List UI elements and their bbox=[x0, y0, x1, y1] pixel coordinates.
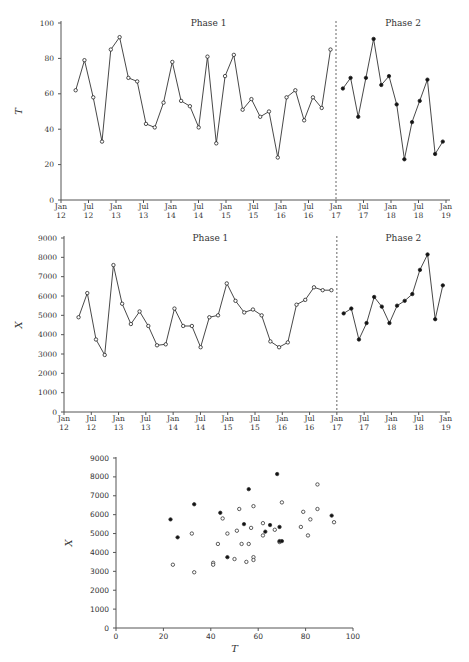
phase-1-point bbox=[86, 291, 89, 294]
phase-2-point bbox=[388, 321, 391, 324]
phase-1-point bbox=[162, 101, 165, 104]
x-tick-label-month: Jul bbox=[413, 414, 425, 423]
phase-2-point bbox=[380, 83, 383, 86]
y-tick-label: 1000 bbox=[90, 605, 109, 614]
phase-1-point bbox=[312, 286, 315, 289]
phase-2-point bbox=[342, 312, 345, 315]
phase-1-point bbox=[135, 80, 138, 83]
y-tick-label: 5000 bbox=[38, 311, 57, 320]
phase-1-point bbox=[277, 346, 280, 349]
x-tick-label-month: Jul bbox=[247, 202, 259, 211]
phase-1-label: Phase 1 bbox=[191, 18, 227, 28]
phase-1-point bbox=[188, 104, 191, 107]
phase-1-point bbox=[233, 557, 236, 560]
phase-2-point bbox=[247, 487, 250, 490]
phase-1-point bbox=[83, 58, 86, 61]
phase-1-point bbox=[332, 521, 335, 524]
phase-1-point bbox=[304, 298, 307, 301]
phase-1-point bbox=[235, 529, 238, 532]
y-tick-label: 60 bbox=[44, 89, 54, 98]
phase-2-label: Phase 2 bbox=[385, 18, 421, 28]
phase-1-point bbox=[252, 558, 255, 561]
phase-1-point bbox=[247, 542, 250, 545]
x-tick-label: 100 bbox=[346, 632, 361, 641]
phase-2-point bbox=[380, 305, 383, 308]
phase-2-point bbox=[426, 78, 429, 81]
x-tick-label-month: Jul bbox=[140, 414, 152, 423]
phase-1-point bbox=[118, 35, 121, 38]
phase-1-point bbox=[251, 308, 254, 311]
x-tick-label-month: Jan bbox=[164, 202, 177, 211]
phase-1-point bbox=[280, 501, 283, 504]
x-tick-label-year: 18 bbox=[414, 423, 424, 432]
phase-1-point bbox=[330, 289, 333, 292]
phase-1-point bbox=[208, 316, 211, 319]
phase-1-point bbox=[190, 324, 193, 327]
phase-2-line bbox=[344, 254, 443, 339]
phase-2-point bbox=[275, 472, 278, 475]
x-tick-label-year: 12 bbox=[56, 211, 66, 220]
y-tick-label: 0 bbox=[52, 408, 57, 417]
phase-2-point bbox=[387, 74, 390, 77]
phase-2-point bbox=[193, 503, 196, 506]
phase-1-point bbox=[294, 89, 297, 92]
phase-1-point bbox=[193, 571, 196, 574]
phase-2-point bbox=[411, 292, 414, 295]
x-tick-label-month: Jan bbox=[221, 414, 234, 423]
phase-1-point bbox=[259, 115, 262, 118]
x-tick-label-year: 17 bbox=[359, 423, 369, 432]
x-axis-title: T bbox=[231, 643, 239, 654]
y-tick-label: 20 bbox=[44, 160, 54, 169]
phase-1-point bbox=[238, 507, 241, 510]
phase-1-point bbox=[234, 299, 237, 302]
phase-2-point bbox=[426, 253, 429, 256]
phase-1-point bbox=[153, 126, 156, 129]
phase-1-label: Phase 1 bbox=[193, 233, 229, 243]
x-tick-label-month: Jul bbox=[85, 414, 97, 423]
x-tick-label-month: Jul bbox=[137, 202, 149, 211]
phase-1-point bbox=[302, 119, 305, 122]
phase-1-point bbox=[309, 518, 312, 521]
phase-2-point bbox=[433, 152, 436, 155]
phase-1-point bbox=[240, 542, 243, 545]
x-tick-label-month: Jan bbox=[111, 414, 124, 423]
phase-1-point bbox=[250, 97, 253, 100]
y-tick-label: 6000 bbox=[38, 292, 57, 301]
x-tick-label-month: Jan bbox=[330, 414, 343, 423]
x-tick-label-year: 13 bbox=[111, 211, 121, 220]
phase-1-point bbox=[173, 307, 176, 310]
phase-1-point bbox=[190, 532, 193, 535]
phase-1-point bbox=[316, 507, 319, 510]
x-tick-label: 20 bbox=[159, 632, 169, 641]
x-tick-label-month: Jan bbox=[384, 414, 397, 423]
phase-2-point bbox=[403, 158, 406, 161]
y-tick-label: 7000 bbox=[90, 491, 109, 500]
phase-1-line bbox=[76, 37, 331, 157]
x-tick-label-month: Jul bbox=[249, 414, 261, 423]
x-tick-label-month: Jan bbox=[219, 202, 232, 211]
x-tick-label-year: 14 bbox=[168, 423, 178, 432]
phase-2-point bbox=[280, 539, 283, 542]
x-tick-label-year: 17 bbox=[331, 211, 341, 220]
phase-1-point bbox=[252, 504, 255, 507]
phase-1-point bbox=[306, 534, 309, 537]
phase-1-point bbox=[155, 344, 158, 347]
phase-1-point bbox=[302, 510, 305, 513]
phase-2-point bbox=[372, 295, 375, 298]
phase-1-point bbox=[171, 563, 174, 566]
phase-2-point bbox=[433, 318, 436, 321]
phase-1-point bbox=[223, 74, 226, 77]
y-tick-label: 2000 bbox=[90, 586, 109, 595]
phase-1-point bbox=[127, 76, 130, 79]
phase-2-point bbox=[341, 87, 344, 90]
phase-2-point bbox=[418, 99, 421, 102]
y-tick-label: 3000 bbox=[38, 350, 57, 359]
phase-1-point bbox=[197, 126, 200, 129]
x-tick-label: 40 bbox=[206, 632, 216, 641]
x-tick-label-year: 18 bbox=[387, 423, 397, 432]
x-tick-label-month: Jul bbox=[302, 202, 314, 211]
phase-1-point bbox=[112, 263, 115, 266]
phase-1-point bbox=[216, 314, 219, 317]
y-tick-label: 5000 bbox=[90, 529, 109, 538]
phase-1-point bbox=[267, 110, 270, 113]
